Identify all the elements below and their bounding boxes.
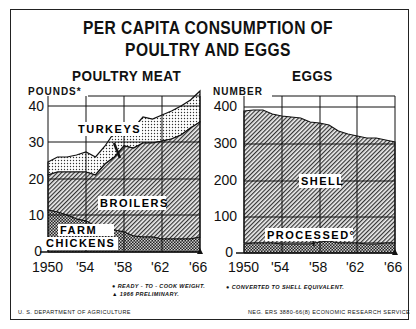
credit-usda: U. S. DEPARTMENT OF AGRICULTURE: [18, 309, 131, 315]
eggs-ytick: 300: [207, 135, 237, 151]
eggs-ytick: 100: [207, 208, 237, 224]
turkeys-label: TURKEYS: [78, 123, 141, 135]
eggs-xtick: '62: [346, 259, 364, 275]
footnote-converted-text: CONVERTED TO SHELL EQUIVALENT.: [232, 284, 345, 290]
credit-ers: NEG. ERS 3880-66(8) ECONOMIC RESEARCH SE…: [248, 309, 410, 315]
eggs-ytick: 0: [203, 244, 233, 260]
processed-label: PROCESSED°: [267, 229, 355, 241]
poultry-ytick: 20: [14, 171, 44, 187]
eggs-ytick: 200: [207, 172, 237, 188]
chart-plots: TURKEYS BROILERS FARM CHICKENS SHELL PRO…: [0, 0, 416, 329]
footnote-ready-to-cook: ● READY - TO - COOK WEIGHT.: [112, 283, 205, 289]
eggs-xtick: '66: [384, 259, 402, 275]
eggs-ytick: 400: [207, 98, 237, 114]
footnote-ready-text: READY - TO - COOK WEIGHT.: [118, 283, 206, 289]
poultry-ytick: 10: [14, 207, 44, 223]
shell-label: SHELL: [301, 175, 345, 187]
poultry-ytick: 0: [12, 243, 42, 259]
poultry-xtick: '66: [189, 259, 207, 275]
broilers-label: BROILERS: [100, 197, 169, 209]
footnote-prelim-text: 1966 PRELIMINARY.: [120, 291, 179, 297]
eggs-xtick: 1950: [228, 259, 259, 275]
poultry-ytick: 40: [14, 98, 44, 114]
farm-label: FARM: [60, 224, 97, 236]
footnote-preliminary: ▲ 1966 PRELIMINARY.: [112, 291, 179, 297]
eggs-xtick: '54: [271, 259, 289, 275]
poultry-xtick: '62: [151, 259, 169, 275]
chickens-label: CHICKENS: [46, 237, 115, 249]
poultry-ytick: 30: [14, 134, 44, 150]
eggs-chart: SHELL PROCESSED°: [236, 96, 398, 255]
poultry-xtick: '58: [114, 259, 132, 275]
eggs-xtick: '58: [309, 259, 327, 275]
poultry-xtick: 1950: [32, 259, 63, 275]
footnote-converted: ● CONVERTED TO SHELL EQUIVALENT.: [226, 284, 344, 290]
poultry-chart: TURKEYS BROILERS FARM CHICKENS: [40, 91, 203, 254]
poultry-xtick: '54: [76, 259, 94, 275]
